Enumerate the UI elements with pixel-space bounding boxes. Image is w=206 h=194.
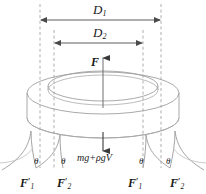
weight-force-label: mg+ρgV <box>77 153 112 163</box>
angle-label-left-outer: θ <box>34 157 38 166</box>
dimension-label-outer: D1 <box>93 3 107 18</box>
angle-label-right-inner: θ <box>139 157 143 166</box>
buoyancy-force-label: F <box>91 56 99 68</box>
dimension-label-inner: D2 <box>93 26 107 41</box>
figure-container: D1 D2 F mg+ρgV θ θ θ θ F′1 F′2 F′1 F′2 <box>0 0 206 194</box>
angle-label-right-outer: θ <box>166 157 170 166</box>
water-curve-left <box>0 148 33 163</box>
mooring-force-label-left-outer: F′1 <box>20 176 34 190</box>
mooring-cable-right-outer <box>175 131 204 170</box>
mooring-force-label-left-inner: F′2 <box>57 176 71 190</box>
mooring-force-label-right-inner: F′1 <box>128 176 142 190</box>
mooring-cable-left-outer <box>2 131 31 170</box>
mooring-force-label-right-outer: F′2 <box>170 176 184 190</box>
water-curve-right <box>173 148 206 163</box>
angle-label-left-inner: θ <box>61 157 65 166</box>
mooring-leg-right-inner <box>143 135 146 168</box>
